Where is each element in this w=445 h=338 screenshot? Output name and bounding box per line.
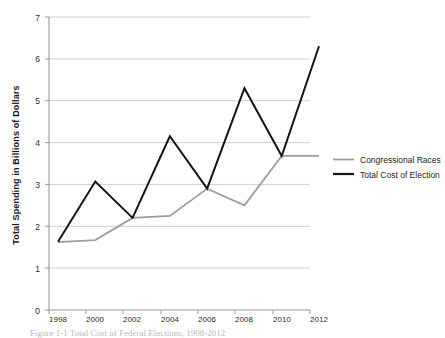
y-tick-labels: 7 6 5 4 3 2 1 0 (35, 13, 40, 316)
x-tick-label: 2012 (310, 315, 328, 324)
y-tick-label: 1 (35, 264, 40, 274)
y-tick-marks (45, 17, 49, 310)
y-axis-label-text: Total Spending in Billions of Dollars (11, 85, 21, 244)
chart-legend: Congressional Races Total Cost of Electi… (333, 155, 441, 180)
x-tick-marks (49, 310, 310, 314)
x-tick-label: 1998 (49, 315, 67, 324)
x-tick-label: 2006 (198, 315, 216, 324)
figure-caption: Figure 1-1 Total Cost of Federal Electio… (30, 328, 225, 338)
line-chart: Total Spending in Billions of Dollars (0, 0, 445, 338)
y-tick-label: 6 (35, 54, 40, 64)
x-tick-label: 2004 (161, 315, 179, 324)
x-tick-label: 2002 (123, 315, 141, 324)
y-tick-label: 5 (35, 96, 40, 106)
legend-label-congressional-races: Congressional Races (360, 155, 441, 165)
series-line-congressional-races (58, 156, 319, 242)
y-tick-label: 7 (35, 13, 40, 23)
series-line-total-cost-of-election (58, 46, 319, 241)
y-tick-label: 4 (35, 138, 40, 148)
x-tick-labels: 1998 2000 2002 2004 2006 2008 2010 2012 (49, 315, 328, 324)
y-axis-label: Total Spending in Billions of Dollars (11, 85, 21, 244)
x-tick-label: 2008 (235, 315, 253, 324)
y-tick-label: 0 (35, 306, 40, 316)
legend-label-total-cost-of-election: Total Cost of Election (360, 170, 440, 180)
x-tick-label: 2010 (273, 315, 291, 324)
y-tick-label: 2 (35, 222, 40, 232)
chart-figure: Total Spending in Billions of Dollars (0, 0, 445, 338)
x-tick-label: 2000 (86, 315, 104, 324)
gridlines (49, 17, 310, 268)
y-tick-label: 3 (35, 180, 40, 190)
